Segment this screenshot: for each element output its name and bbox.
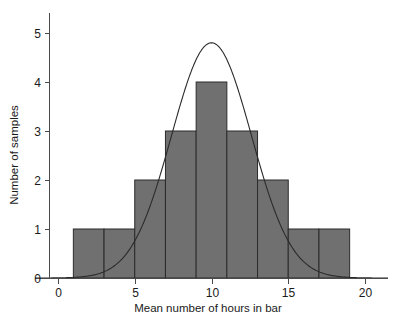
chart-canvas: 012345 05101520 Number of samples Mean n… (0, 0, 399, 326)
histogram-bar (227, 131, 258, 278)
x-axis-ticks: 05101520 (55, 279, 372, 301)
y-tick-label: 4 (34, 76, 41, 90)
y-axis-title: Number of samples (8, 105, 20, 205)
x-tick-label: 0 (55, 286, 62, 300)
x-tick-label: 10 (206, 286, 220, 300)
y-tick-label: 5 (34, 27, 41, 41)
histogram-bar (104, 229, 135, 278)
y-tick-label: 3 (34, 125, 41, 139)
y-axis-ticks: 012345 (34, 27, 49, 286)
histogram-bar (165, 131, 196, 278)
y-tick-label: 0 (34, 272, 41, 286)
x-axis-title: Mean number of hours in bar (134, 302, 282, 314)
y-tick-label: 2 (34, 174, 41, 188)
x-tick-label: 5 (132, 286, 139, 300)
histogram-bar (319, 229, 350, 278)
histogram-bar (288, 229, 319, 278)
x-tick-label: 15 (282, 286, 296, 300)
histogram-figure: 012345 05101520 Number of samples Mean n… (0, 0, 399, 326)
histogram-bars (73, 82, 349, 278)
histogram-bar (73, 229, 104, 278)
x-tick-label: 20 (359, 286, 373, 300)
histogram-bar (135, 180, 166, 278)
y-tick-label: 1 (34, 223, 41, 237)
histogram-bar (196, 82, 227, 278)
histogram-bar (258, 180, 289, 278)
